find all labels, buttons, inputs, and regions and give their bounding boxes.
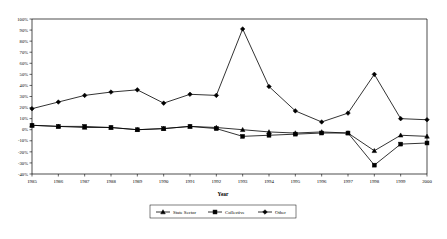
data-point-marker — [83, 124, 87, 128]
y-tick-label: 80% — [20, 39, 29, 44]
data-point-marker — [425, 117, 430, 122]
x-tick-label: 1993 — [238, 179, 248, 184]
legend-item-label: Collective — [225, 210, 245, 215]
y-tick-label: 100% — [17, 17, 28, 22]
data-point-marker — [56, 100, 61, 105]
data-point-marker — [213, 210, 217, 214]
x-tick-label: 1988 — [106, 179, 116, 184]
y-tick-label: -30% — [18, 161, 28, 166]
y-tick-label: 60% — [20, 61, 29, 66]
data-point-marker — [188, 124, 192, 128]
y-tick-label: 50% — [20, 72, 29, 77]
legend-item-label: Other — [275, 210, 286, 215]
data-point-marker — [214, 93, 219, 98]
series-line — [32, 125, 427, 165]
data-point-marker — [372, 72, 377, 77]
data-point-marker — [161, 101, 166, 106]
legend-item-label: State Sector — [173, 210, 196, 215]
series-collective — [30, 123, 429, 167]
data-point-marker — [267, 133, 271, 137]
data-point-marker — [162, 127, 166, 131]
series-line — [32, 125, 427, 150]
x-tick-label: 2000 — [422, 179, 432, 184]
y-tick-label: 0% — [22, 127, 28, 132]
x-tick-label: 1992 — [212, 179, 222, 184]
x-tick-label: 1996 — [317, 179, 327, 184]
legend-item-collective[interactable]: Collective — [208, 210, 245, 215]
y-tick-label: -40% — [18, 172, 28, 177]
x-tick-label: 1986 — [54, 179, 64, 184]
x-tick-label: 1987 — [80, 179, 90, 184]
data-point-marker — [135, 88, 140, 93]
y-tick-label: 30% — [20, 94, 29, 99]
data-point-marker — [425, 141, 429, 145]
data-point-marker — [56, 124, 60, 128]
y-tick-label: 40% — [20, 83, 29, 88]
x-tick-label: 1989 — [133, 179, 143, 184]
data-point-marker — [240, 27, 245, 32]
data-point-marker — [188, 92, 193, 97]
data-point-marker — [399, 142, 403, 146]
x-tick-label: 1998 — [370, 179, 380, 184]
series-layer — [30, 27, 430, 167]
data-point-marker — [109, 126, 113, 130]
series-state-sector — [30, 123, 430, 153]
x-tick-label: 1999 — [396, 179, 406, 184]
data-point-marker — [346, 131, 350, 135]
data-point-marker — [30, 123, 34, 127]
data-point-marker — [398, 116, 403, 121]
y-tick-label: 90% — [20, 28, 29, 33]
y-tick-label: 20% — [20, 105, 29, 110]
y-tick-label: -10% — [18, 138, 28, 143]
series-other — [30, 27, 430, 125]
y-axis-labels: 100%90%80%70%60%50%40%30%20%10%0%-10%-20… — [17, 17, 28, 177]
x-tick-label: 1994 — [264, 179, 274, 184]
data-point-marker — [241, 134, 245, 138]
chart-container: 100%90%80%70%60%50%40%30%20%10%0%-10%-20… — [0, 0, 447, 239]
data-point-marker — [372, 163, 376, 167]
data-point-marker — [346, 111, 351, 116]
x-tick-label: 1991 — [185, 179, 195, 184]
line-chart: 100%90%80%70%60%50%40%30%20%10%0%-10%-20… — [0, 0, 447, 239]
chart-legend: State SectorCollectiveOther — [150, 205, 296, 218]
data-point-marker — [214, 127, 218, 131]
data-point-marker — [82, 93, 87, 98]
data-point-marker — [320, 131, 324, 135]
x-axis-title: Year — [218, 191, 229, 197]
data-point-marker — [372, 148, 377, 152]
y-axis-ticks — [30, 19, 33, 174]
y-tick-label: 10% — [20, 116, 29, 121]
data-point-marker — [319, 120, 324, 125]
data-point-marker — [135, 128, 139, 132]
x-tick-label: 1997 — [343, 179, 353, 184]
data-point-marker — [109, 90, 114, 95]
series-line — [32, 29, 427, 122]
data-point-marker — [30, 106, 35, 111]
x-tick-label: 1995 — [291, 179, 301, 184]
x-tick-label: 1985 — [27, 179, 37, 184]
x-tick-label: 1990 — [159, 179, 169, 184]
data-point-marker — [293, 132, 297, 136]
y-tick-label: 70% — [20, 50, 29, 55]
plot-frame — [32, 19, 427, 174]
x-axis-labels: 1985198619871988198919901991199219931994… — [27, 179, 432, 184]
y-tick-label: -20% — [18, 150, 28, 155]
x-axis-ticks — [32, 174, 427, 177]
